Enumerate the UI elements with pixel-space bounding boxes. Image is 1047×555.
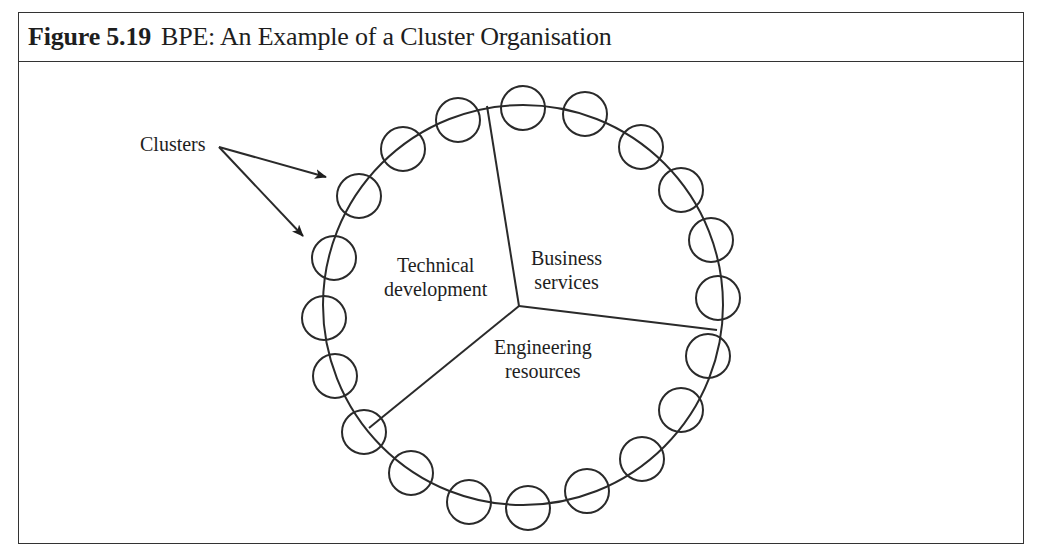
segment-label-business-services: Business services xyxy=(531,246,602,294)
cluster-organisation-diagram xyxy=(0,0,1047,555)
cluster-circle xyxy=(659,388,703,432)
cluster-circle xyxy=(620,437,664,481)
cluster-circle xyxy=(565,469,609,513)
segment-label-technical-development: Technical development xyxy=(384,253,487,301)
cluster-circle xyxy=(506,486,550,530)
cluster-circle xyxy=(501,86,545,130)
cluster-circle xyxy=(686,334,730,378)
cluster-circle xyxy=(337,174,381,218)
cluster-circle xyxy=(619,125,663,169)
cluster-circle xyxy=(696,276,740,320)
spoke-right xyxy=(519,306,717,330)
organisation-ring xyxy=(323,105,723,505)
cluster-circle xyxy=(342,410,386,454)
segment-label-engineering-resources: Engineering resources xyxy=(494,335,592,383)
cluster-circle xyxy=(381,127,425,171)
spoke-top xyxy=(487,106,519,306)
cluster-circle xyxy=(659,168,703,212)
cluster-circle xyxy=(389,451,433,495)
callout-arrow-upper xyxy=(219,147,326,177)
callout-arrow-lower xyxy=(219,147,303,236)
clusters-label: Clusters xyxy=(140,132,206,156)
cluster-circle xyxy=(689,218,733,262)
cluster-circles xyxy=(302,86,740,530)
cluster-circle xyxy=(436,98,480,142)
